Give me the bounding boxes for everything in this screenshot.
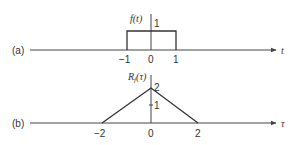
tau-axis-label: τ: [281, 118, 285, 129]
t-tick-0: 0: [148, 54, 154, 65]
tau-tick-minus2: −2: [94, 128, 106, 139]
t-tick-1: 1: [173, 54, 179, 65]
r-y-tick-1: 1: [154, 100, 160, 111]
panel-b: (b) τ Rf(τ) 1 2 −2 0 2: [12, 71, 285, 139]
diagram-canvas: (a) t f(t) 1 −1 0 1 (b) τ Rf(τ) 1 2 −2 0…: [0, 0, 295, 145]
f-y-tick-1: 1: [154, 18, 160, 29]
panel-b-label: (b): [12, 118, 24, 129]
t-axis-label: t: [281, 45, 284, 56]
tau-tick-0: 0: [148, 128, 154, 139]
r-function-label: Rf(τ): [127, 71, 147, 84]
f-function-label: f(t): [130, 13, 143, 25]
t-tick-minus1: −1: [119, 54, 131, 65]
tau-tick-2: 2: [195, 128, 201, 139]
panel-a-label: (a): [12, 45, 24, 56]
panel-a: (a) t f(t) 1 −1 0 1: [12, 13, 284, 65]
